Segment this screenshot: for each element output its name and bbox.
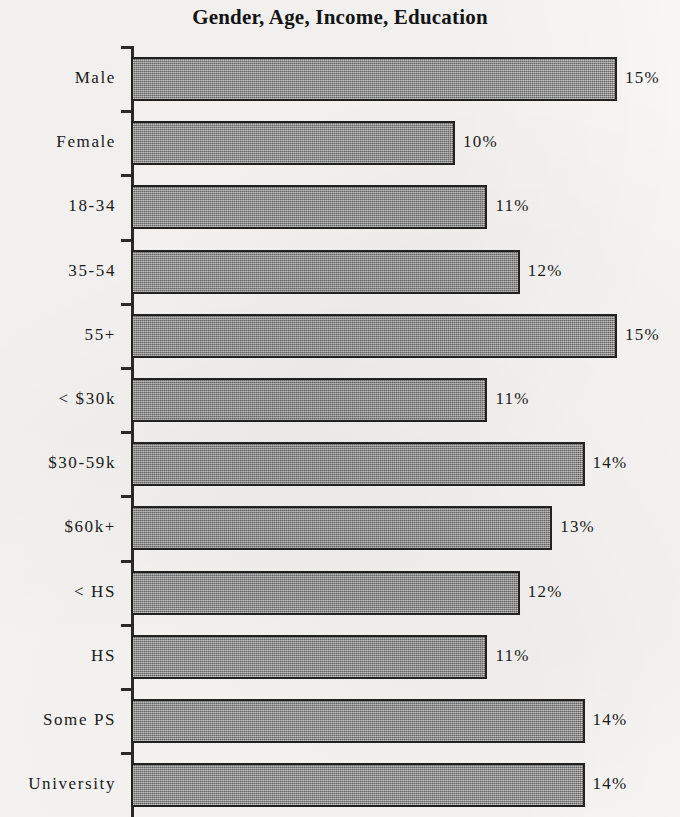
y-axis-tick <box>121 688 132 691</box>
category-label: 55+ <box>0 325 116 345</box>
category-label: < HS <box>0 582 116 602</box>
bar <box>131 699 585 743</box>
category-label: Some PS <box>0 710 116 730</box>
value-label: 14% <box>593 453 628 473</box>
y-axis-tick <box>121 560 132 563</box>
y-axis-tick <box>121 752 132 755</box>
value-label: 14% <box>593 774 628 794</box>
value-label: 15% <box>625 325 660 345</box>
value-label: 14% <box>593 710 628 730</box>
category-label: < $30k <box>0 389 116 409</box>
bar <box>131 57 617 101</box>
category-label: $30-59k <box>0 453 116 473</box>
bar <box>131 121 455 165</box>
value-label: 10% <box>463 132 498 152</box>
category-label: 18-34 <box>0 196 116 216</box>
bar <box>131 571 520 615</box>
y-axis-tick <box>121 624 132 627</box>
category-label: Male <box>0 68 116 88</box>
category-label: University <box>0 774 116 794</box>
y-axis-tick <box>121 495 132 498</box>
bar <box>131 250 520 294</box>
bar <box>131 185 487 229</box>
value-label: 11% <box>495 389 529 409</box>
bar <box>131 442 585 486</box>
y-axis-tick <box>121 110 132 113</box>
y-axis-tick <box>121 239 132 242</box>
value-label: 15% <box>625 68 660 88</box>
bar <box>131 314 617 358</box>
y-axis-tick <box>121 46 132 49</box>
category-label: HS <box>0 646 116 666</box>
y-axis-tick <box>121 431 132 434</box>
category-label: Female <box>0 132 116 152</box>
value-label: 12% <box>528 261 563 281</box>
value-label: 11% <box>495 196 529 216</box>
bar <box>131 635 487 679</box>
y-axis-tick <box>121 174 132 177</box>
category-label: $60k+ <box>0 517 116 537</box>
category-label: 35-54 <box>0 261 116 281</box>
value-label: 12% <box>528 582 563 602</box>
plot-area: Male15%Female10%18-3411%35-5412%55+15%< … <box>0 0 680 817</box>
y-axis-tick <box>121 367 132 370</box>
bar <box>131 506 552 550</box>
value-label: 13% <box>560 517 595 537</box>
value-label: 11% <box>495 646 529 666</box>
bar <box>131 378 487 422</box>
y-axis-tick <box>121 303 132 306</box>
bar <box>131 763 585 807</box>
bar-chart: Gender, Age, Income, Education Male15%Fe… <box>0 0 680 817</box>
